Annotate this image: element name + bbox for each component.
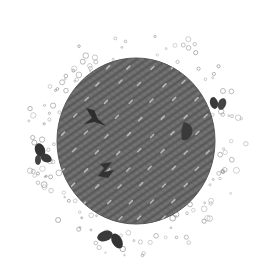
leaf-right-icon <box>209 96 228 111</box>
illustration-canvas <box>0 0 265 279</box>
leaf-bottom-icon <box>96 229 126 251</box>
textured-disk <box>57 58 231 224</box>
